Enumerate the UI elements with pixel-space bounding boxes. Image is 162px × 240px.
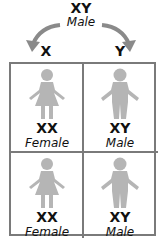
female-figure-icon (27, 68, 67, 120)
cell-genotype: XX (11, 210, 83, 225)
gamete-x-label: X (36, 43, 56, 59)
cell-sex: Male (84, 225, 156, 239)
split-arrows-icon (0, 0, 162, 60)
cell-genotype: XX (11, 121, 83, 136)
cell-sex: Female (11, 136, 83, 150)
male-figure-icon (100, 68, 140, 120)
cell-genotype: XY (84, 121, 156, 136)
cell-top-left: XX Female (11, 64, 83, 152)
cell-sex: Male (84, 136, 156, 150)
male-figure-icon (100, 157, 140, 209)
cell-top-right: XY Male (84, 64, 156, 152)
cell-bottom-left: XX Female (11, 153, 83, 240)
cell-bottom-right: XY Male (84, 153, 156, 240)
gamete-y-label: Y (110, 43, 130, 59)
cell-sex: Female (11, 225, 83, 239)
cell-genotype: XY (84, 210, 156, 225)
female-figure-icon (27, 157, 67, 209)
